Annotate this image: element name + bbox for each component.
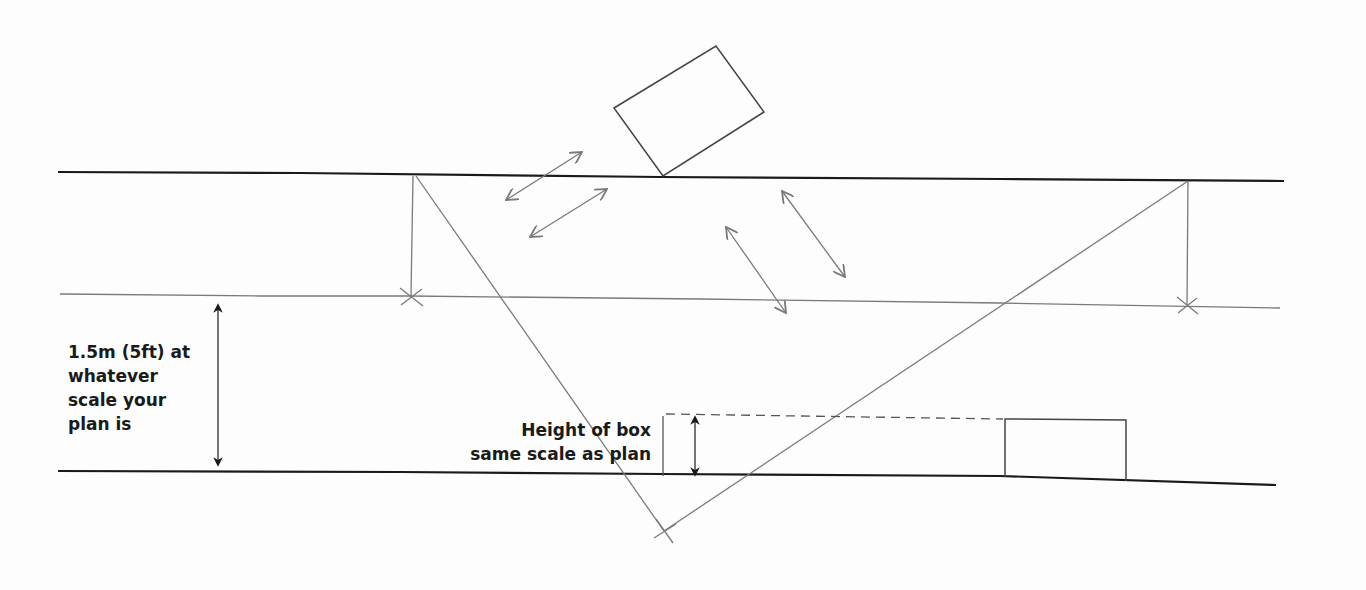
box-height-label: Height of box same scale as plan: [450, 418, 651, 466]
rotated-box-plan: [614, 46, 764, 176]
box-elevation: [1005, 419, 1126, 481]
eye-height-label-line-4: plan is: [68, 412, 190, 436]
box-height-label-line-2: same scale as plan: [450, 442, 651, 466]
eye-height-label-line-1: 1.5m (5ft) at: [68, 340, 190, 364]
eye-height-label-line-3: scale your: [68, 388, 190, 412]
box-height-dashed-line: [666, 414, 1003, 419]
top-boundary-line: [58, 172, 1284, 181]
double-arrow-4: [782, 191, 845, 277]
bottom-boundary-line: [58, 471, 1276, 485]
double-arrow-2: [530, 189, 607, 237]
eye-height-label-line-2: whatever: [68, 364, 190, 388]
left-drop-line: [411, 176, 413, 296]
eye-height-label: 1.5m (5ft) at whatever scale your plan i…: [68, 340, 190, 436]
sight-line-diagram: [0, 0, 1366, 590]
eye-height-line: [60, 294, 1280, 308]
right-drop-line: [1187, 181, 1188, 305]
sight-line-left: [416, 176, 664, 531]
box-height-label-line-1: Height of box: [450, 418, 651, 442]
